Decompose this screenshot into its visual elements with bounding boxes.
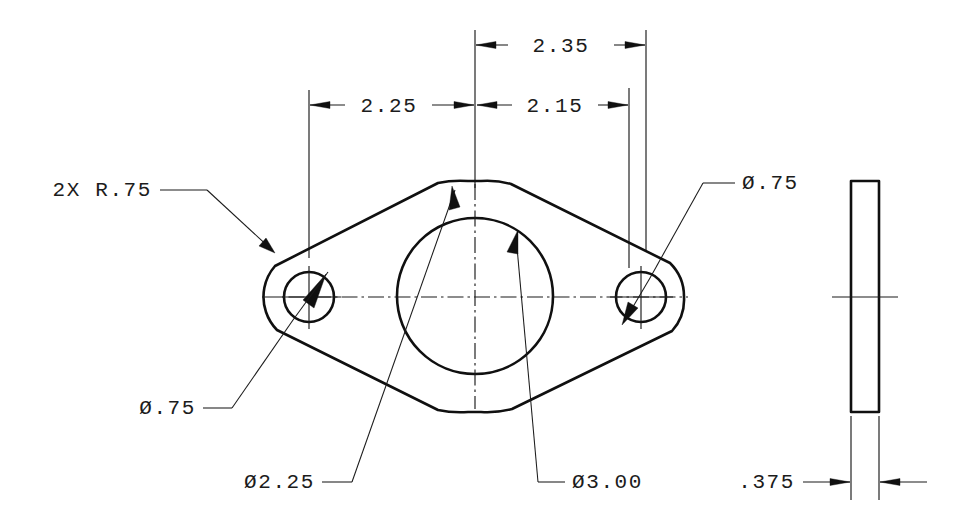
callout-bolt-circle-text: Ø2.25 [244, 471, 315, 494]
extension-lines-group [309, 30, 646, 268]
callout-right-hole-text: Ø.75 [742, 172, 799, 195]
callout-left-hole: Ø.75 [139, 272, 328, 420]
dim-thickness-arrow-left [830, 479, 850, 486]
dim-2-15-arrow-right [608, 102, 628, 109]
dimension-2-25: 2.25 [310, 95, 474, 118]
callout-left-hole-leader [232, 320, 293, 408]
callout-2x-r75-text: 2X R.75 [53, 179, 152, 202]
callout-left-hole-leader-inner [293, 272, 328, 320]
callout-center-bore-text: Ø3.00 [572, 471, 643, 494]
drawing-canvas: 2.35 2.25 2.15 [0, 0, 955, 516]
dim-2-15-text: 2.15 [527, 95, 584, 118]
callout-bolt-circle-leader [352, 190, 455, 482]
callout-2x-r75-leader [207, 190, 272, 250]
dimension-2-35: 2.35 [476, 35, 645, 58]
callout-center-bore-arrow-head [507, 230, 518, 254]
dimension-thickness: .375 [738, 471, 927, 494]
side-view [832, 181, 898, 500]
dim-thickness-text: .375 [738, 471, 795, 494]
dim-2-25-arrow-left [310, 102, 330, 109]
center-lines-group [262, 184, 688, 409]
callout-right-hole-leader [650, 183, 703, 278]
callout-2x-r75: 2X R.75 [53, 179, 275, 253]
dim-2-35-text: 2.35 [533, 35, 590, 58]
engineering-drawing: 2.35 2.25 2.15 [0, 0, 955, 516]
callout-bolt-circle: Ø2.25 [244, 186, 460, 494]
dim-2-25-arrow-right [454, 102, 474, 109]
callout-left-hole-text: Ø.75 [139, 397, 196, 420]
callout-right-hole: Ø.75 [622, 172, 799, 325]
callout-bolt-circle-arrow-head [449, 186, 460, 210]
callout-center-bore: Ø3.00 [507, 230, 643, 494]
dim-2-35-arrow-left [476, 42, 496, 49]
dim-2-35-arrow-right [625, 42, 645, 49]
dim-2-25-text: 2.25 [361, 95, 418, 118]
dimension-2-15: 2.15 [477, 95, 628, 118]
dim-thickness-arrow-right [880, 479, 900, 486]
dim-2-15-arrow-left [477, 102, 497, 109]
